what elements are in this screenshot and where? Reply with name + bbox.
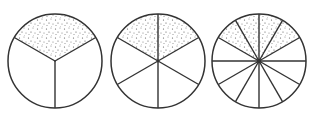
equivalent-fractions-diagram xyxy=(0,0,311,115)
divider-line xyxy=(117,61,158,85)
shaded-sector xyxy=(14,14,95,61)
center-point xyxy=(157,60,160,63)
divider-line xyxy=(158,61,199,85)
center-point xyxy=(54,60,56,62)
fraction-circle-twelfths xyxy=(212,14,306,108)
fraction-circle-thirds xyxy=(8,14,102,108)
fraction-circle-sixths xyxy=(111,14,205,108)
center-point xyxy=(257,59,261,63)
